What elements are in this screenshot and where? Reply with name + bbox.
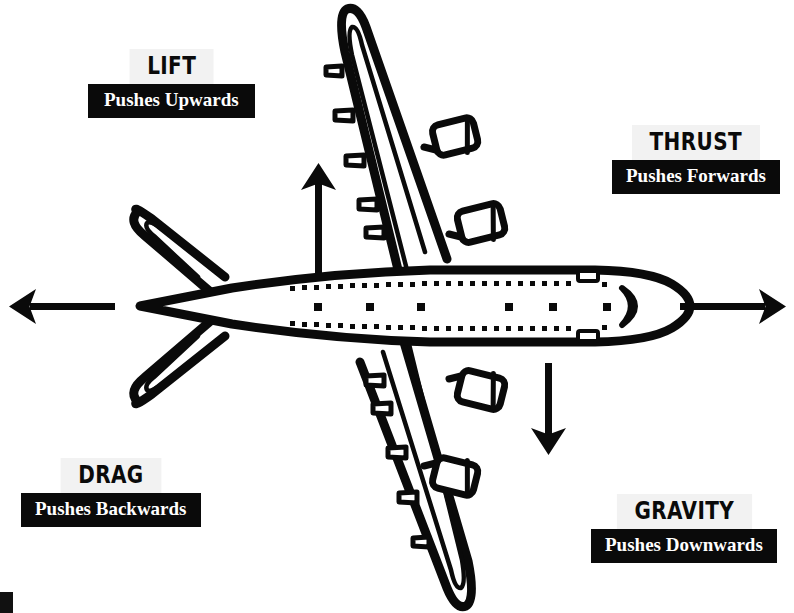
force-label-drag: DRAG Pushes Backwards <box>21 458 201 527</box>
upper-engine-inboard <box>449 202 506 244</box>
drag-arrow-left <box>9 289 115 324</box>
page-corner-mark <box>0 592 13 613</box>
force-title-thrust: THRUST <box>632 125 760 160</box>
gravity-arrow-down <box>531 363 566 455</box>
upper-engine-outboard <box>424 116 479 156</box>
lower-horizontal-stabilizer <box>134 318 225 404</box>
lower-engine-inboard <box>449 369 506 411</box>
force-subtitle-drag: Pushes Backwards <box>21 493 201 527</box>
upper-horizontal-stabilizer <box>134 209 225 295</box>
force-title-lift: LIFT <box>129 49 213 84</box>
lift-arrow-up <box>301 163 336 273</box>
force-subtitle-lift: Pushes Upwards <box>88 84 255 118</box>
force-label-gravity: GRAVITY Pushes Downwards <box>591 494 777 563</box>
diagram-page: LIFT Pushes Upwards THRUST Pushes Forwar… <box>0 0 794 613</box>
force-subtitle-gravity: Pushes Downwards <box>591 529 777 563</box>
force-subtitle-thrust: Pushes Forwards <box>612 160 780 194</box>
force-title-drag: DRAG <box>60 458 161 493</box>
force-label-lift: LIFT Pushes Upwards <box>88 49 255 118</box>
thrust-arrow-right <box>680 289 786 324</box>
force-label-thrust: THRUST Pushes Forwards <box>612 125 780 194</box>
force-title-gravity: GRAVITY <box>616 494 751 529</box>
